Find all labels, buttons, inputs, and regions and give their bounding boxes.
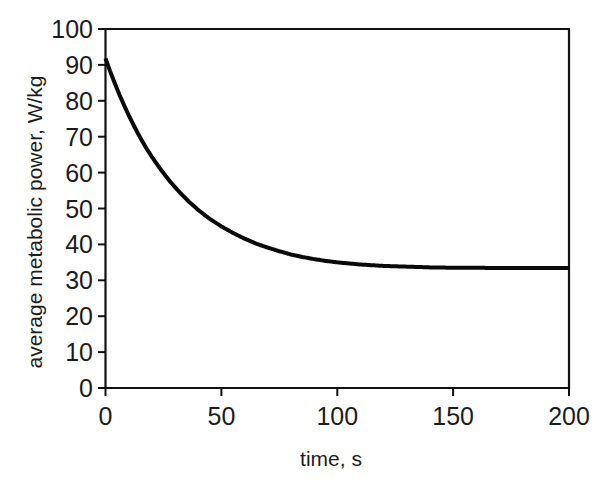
- y-tick-label-70: 70: [65, 123, 93, 151]
- y-tick-label-100: 100: [51, 15, 93, 43]
- x-tick-label-50: 50: [207, 402, 235, 430]
- y-tick-label-90: 90: [65, 51, 93, 79]
- x-axis-title: time, s: [300, 447, 362, 470]
- figure-container: 100 90 80 70 60 50 40 30 20 10 0 0 50 10…: [0, 0, 606, 482]
- y-tick-label-50: 50: [65, 195, 93, 223]
- x-tick-label-150: 150: [432, 402, 474, 430]
- x-tick-label-0: 0: [99, 402, 113, 430]
- y-tick-label-40: 40: [65, 230, 93, 258]
- y-tick-label-60: 60: [65, 159, 93, 187]
- y-axis-title: average metabolic power, W/kg: [23, 76, 46, 369]
- x-tick-label-100: 100: [316, 402, 358, 430]
- data-series-line: [106, 58, 570, 268]
- x-axis-ticks: [106, 388, 570, 396]
- x-tick-label-200: 200: [548, 402, 590, 430]
- plot-frame: [106, 29, 570, 388]
- metabolic-power-chart: 100 90 80 70 60 50 40 30 20 10 0 0 50 10…: [0, 0, 606, 482]
- y-tick-label-30: 30: [65, 266, 93, 294]
- y-tick-label-10: 10: [65, 338, 93, 366]
- y-tick-label-20: 20: [65, 302, 93, 330]
- y-axis-ticks: [98, 29, 106, 388]
- y-tick-label-0: 0: [79, 374, 93, 402]
- y-tick-label-80: 80: [65, 87, 93, 115]
